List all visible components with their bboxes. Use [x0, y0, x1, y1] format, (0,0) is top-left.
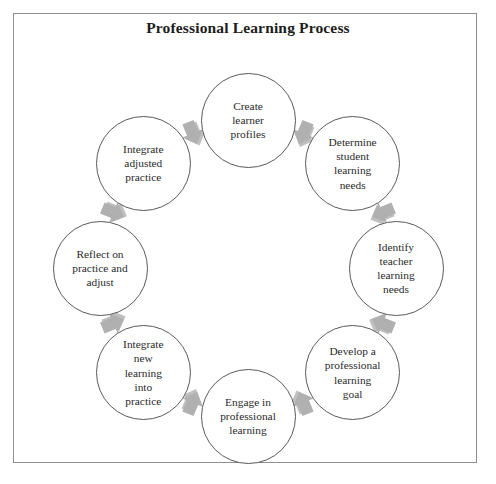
cycle-node-identify-teacher-learning-needs: Identify teacher learning needs — [349, 221, 444, 316]
diagram-page: Professional Learning Process Create lea… — [0, 0, 496, 484]
cycle-node-label: Engage in professional learning — [215, 395, 281, 438]
cycle-node-label: Develop a professional learning goal — [320, 344, 386, 401]
cycle-diagram: Create learner profilesDetermine student… — [13, 13, 477, 463]
cycle-node-reflect-on-practice-and-adjust: Reflect on practice and adjust — [53, 221, 148, 316]
cycle-node-label: Integrate adjusted practice — [118, 142, 168, 185]
cycle-node-label: Create learner profiles — [226, 99, 271, 142]
cycle-node-determine-student-learning-needs: Determine student learning needs — [305, 116, 400, 211]
cycle-node-label: Identify teacher learning needs — [372, 240, 419, 297]
cycle-node-develop-a-professional-learning-goal: Develop a professional learning goal — [305, 325, 400, 420]
cycle-node-integrate-new-learning-into-practice: Integrate new learning into practice — [96, 325, 191, 420]
cycle-node-integrate-adjusted-practice: Integrate adjusted practice — [96, 116, 191, 211]
cycle-node-label: Reflect on practice and adjust — [67, 247, 132, 290]
cycle-node-label: Integrate new learning into practice — [118, 337, 168, 408]
cycle-node-label: Determine student learning needs — [324, 135, 382, 192]
cycle-node-engage-in-professional-learning: Engage in professional learning — [201, 369, 296, 464]
cycle-node-create-learner-profiles: Create learner profiles — [201, 73, 296, 168]
